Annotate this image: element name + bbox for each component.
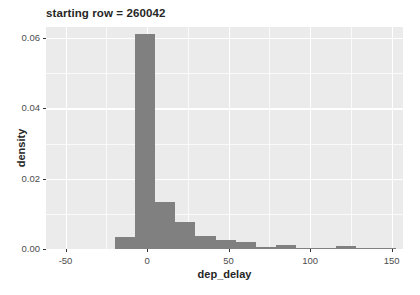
histogram-bar bbox=[135, 34, 155, 249]
histogram-bar bbox=[216, 240, 236, 249]
y-tick-label: 0.04 bbox=[22, 102, 41, 113]
histogram-bar bbox=[376, 248, 396, 249]
chart-title: starting row = 260042 bbox=[46, 7, 165, 19]
x-tick-label: 50 bbox=[209, 255, 249, 266]
x-tick-mark bbox=[310, 249, 311, 252]
y-tick-mark bbox=[43, 249, 46, 250]
y-tick-mark bbox=[43, 108, 46, 109]
histogram-bar bbox=[256, 247, 276, 249]
y-tick-mark bbox=[43, 179, 46, 180]
chart-container: starting row = 260042 density dep_delay … bbox=[0, 0, 420, 295]
histogram-bar bbox=[316, 248, 336, 249]
y-tick-label: 0.00 bbox=[22, 243, 41, 254]
histogram-bar bbox=[336, 246, 356, 250]
x-tick-label: 100 bbox=[290, 255, 330, 266]
y-tick-label: 0.06 bbox=[22, 32, 41, 43]
histogram-bars bbox=[46, 27, 403, 249]
histogram-bar bbox=[175, 222, 195, 249]
x-tick-mark bbox=[392, 249, 393, 252]
x-tick-label: 0 bbox=[127, 255, 167, 266]
y-axis-title: density bbox=[15, 128, 27, 167]
histogram-bar bbox=[155, 202, 175, 249]
x-tick-label: -50 bbox=[46, 255, 86, 266]
histogram-bar bbox=[236, 242, 256, 249]
x-tick-mark bbox=[229, 249, 230, 252]
histogram-bar bbox=[356, 248, 376, 249]
histogram-bar bbox=[195, 236, 215, 249]
plot-panel bbox=[46, 27, 403, 249]
y-tick-label: 0.02 bbox=[22, 173, 41, 184]
x-tick-mark bbox=[66, 249, 67, 252]
y-tick-mark bbox=[43, 38, 46, 39]
histogram-bar bbox=[296, 248, 316, 249]
x-tick-label: 150 bbox=[372, 255, 412, 266]
histogram-bar bbox=[276, 245, 296, 249]
x-tick-mark bbox=[147, 249, 148, 252]
histogram-bar bbox=[115, 237, 135, 249]
x-axis-title: dep_delay bbox=[46, 268, 403, 280]
